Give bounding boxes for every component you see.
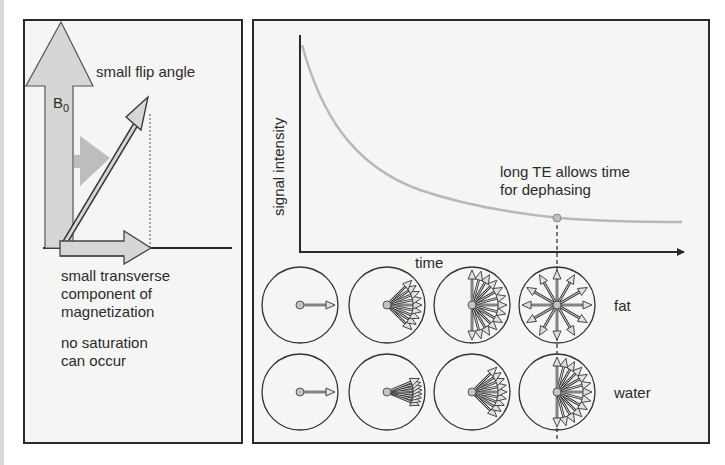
- b0-label: B0: [53, 94, 69, 117]
- te-point-marker: [553, 214, 561, 222]
- b0-label-subscript: 0: [63, 102, 69, 114]
- transverse-line-3: magnetization: [61, 303, 170, 321]
- x-axis-label: time: [415, 254, 443, 272]
- fat-spin-diagram-3: [434, 267, 510, 343]
- fat-spin-diagram-1: [262, 267, 338, 343]
- transverse-component-label: small transverse component of magnetizat…: [61, 267, 170, 321]
- flip-angle-label: small flip angle: [96, 63, 195, 81]
- row-label-fat: fat: [614, 297, 631, 315]
- saturation-line-2: can occur: [61, 352, 148, 370]
- water-spin-diagram-4: [519, 354, 595, 430]
- row-label-water: water: [614, 384, 651, 402]
- water-spin-diagram-2: [349, 354, 425, 430]
- spin-phase-diagrams: [262, 267, 595, 430]
- fat-spin-diagram-4: [519, 267, 595, 343]
- te-annotation-line-2: for dephasing: [500, 181, 630, 199]
- y-axis-label-text: signal intensity: [270, 118, 287, 216]
- b0-label-main: B: [53, 94, 63, 111]
- te-annotation: long TE allows time for dephasing: [500, 163, 630, 199]
- no-saturation-label: no saturation can occur: [61, 334, 148, 370]
- water-spin-diagram-1: [262, 354, 338, 430]
- magnetization-vector-icon: [64, 97, 148, 244]
- water-spin-diagram-3: [434, 354, 510, 430]
- fat-spin-diagram-2: [349, 267, 425, 343]
- saturation-line-1: no saturation: [61, 334, 148, 352]
- transverse-line-1: small transverse: [61, 267, 170, 285]
- te-annotation-line-1: long TE allows time: [500, 163, 630, 181]
- transverse-component-arrow-icon: [60, 231, 151, 264]
- transverse-line-2: component of: [61, 285, 170, 303]
